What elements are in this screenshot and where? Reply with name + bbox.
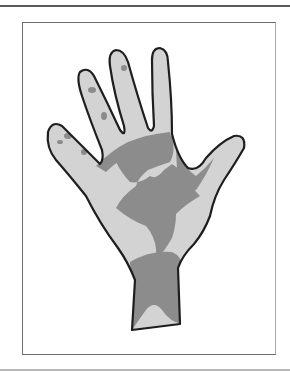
- hand-illustration: [0, 0, 290, 372]
- bottom-rule: [0, 369, 290, 371]
